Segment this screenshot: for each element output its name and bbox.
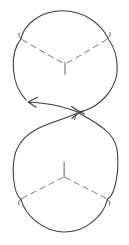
lower-right-boundary bbox=[107, 154, 118, 199]
upper-right-cusp-hook bbox=[108, 32, 111, 38]
upper-lens-region bbox=[13, 11, 117, 112]
lower-left-upper-boundary bbox=[15, 114, 76, 154]
figure-root: Pair-of-pants decomposition diagram Two … bbox=[0, 0, 129, 245]
waist-connector bbox=[28, 97, 84, 120]
topological-diagram-svg bbox=[0, 0, 129, 245]
upper-right-boundary bbox=[78, 39, 117, 112]
lower-bottom-arc bbox=[21, 200, 107, 232]
lower-right-upper-boundary bbox=[80, 114, 118, 154]
upper-left-boundary bbox=[13, 39, 26, 100]
lower-left-boundary bbox=[13, 154, 21, 200]
directed-arc bbox=[29, 102, 79, 113]
upper-dashed-arm-left bbox=[23, 40, 64, 63]
upper-dashed-arm-right bbox=[66, 40, 106, 64]
lower-dashed-arm-left bbox=[22, 178, 63, 199]
lower-dashed-arm-right bbox=[65, 178, 106, 199]
lower-lens-region bbox=[13, 114, 118, 233]
upper-left-cusp-hook bbox=[19, 33, 21, 39]
upper-top-arc bbox=[21, 11, 108, 39]
